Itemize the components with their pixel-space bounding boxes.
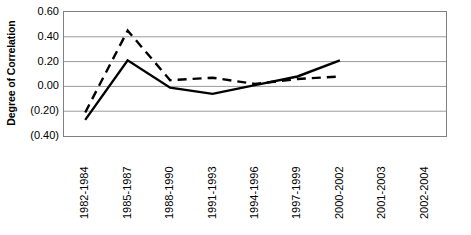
gridlines: [64, 37, 446, 111]
y-tick-label: 0.00: [38, 80, 59, 91]
series-lines: [85, 31, 340, 120]
x-tick-label: 2001-2003: [374, 141, 388, 234]
correlation-line-chart: Degree of Correlation 0.600.400.200.00(0…: [0, 0, 471, 235]
x-tick-label: 1997-1999: [289, 141, 303, 234]
x-tick-label: 2000-2002: [332, 141, 346, 234]
y-tick-label: (0.20): [30, 105, 59, 116]
plot-area: [63, 11, 447, 137]
plot-svg: [64, 12, 446, 136]
y-tick-label: 0.60: [38, 6, 59, 17]
y-axis-tick-labels: 0.600.400.200.00(0.20)(0.40): [22, 0, 61, 145]
y-axis-title: Degree of Correlation: [0, 0, 22, 145]
x-tick-label: 2002-2004: [417, 141, 431, 234]
x-tick-label: 1991-1993: [205, 141, 219, 234]
y-axis-title-label: Degree of Correlation: [5, 20, 17, 125]
y-tick-label: 0.40: [38, 30, 59, 41]
x-tick-label: 1985-1987: [120, 141, 134, 234]
y-tick-label: 0.20: [38, 55, 59, 66]
series-line-dashed-series: [85, 31, 340, 113]
x-tick-label: 1982-1984: [77, 141, 91, 234]
x-axis-tick-labels: 1982-19841985-19871988-19901991-19931994…: [63, 139, 447, 235]
x-tick-label: 1994-1996: [247, 141, 261, 234]
y-tick-label: (0.40): [30, 130, 59, 141]
x-tick-label: 1988-1990: [162, 141, 176, 234]
